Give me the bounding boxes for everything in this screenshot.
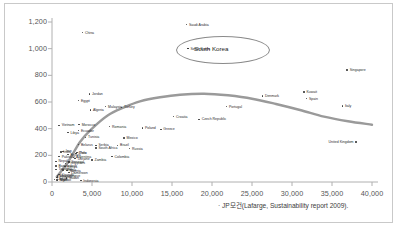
point-label: Singapore: [350, 68, 366, 72]
point-label: Nepal: [59, 159, 68, 163]
data-point: [90, 109, 92, 111]
data-point: [355, 141, 357, 143]
scatter-plot: 02004006008001,0001,200 05,00010,00015,0…: [5, 4, 394, 224]
data-point: [95, 147, 97, 149]
y-tick-800: 800: [7, 71, 47, 79]
y-tick-200: 200: [7, 151, 47, 159]
point-label: Croatia: [176, 115, 187, 119]
y-tick-600: 600: [7, 98, 47, 106]
point-label: Zambia: [95, 158, 107, 162]
point-label: Denmark: [265, 94, 279, 98]
data-point: [55, 165, 57, 167]
data-point: [123, 137, 125, 139]
data-point: [346, 69, 348, 71]
point-label: China: [85, 31, 94, 35]
point-label: Tunisia: [88, 135, 99, 139]
point-label: Saudi Arabia: [189, 23, 209, 27]
point-label: Colombia: [115, 155, 130, 159]
x-tick-35000: 35,000: [312, 190, 352, 198]
point-label: Malaysia: [108, 105, 122, 109]
data-point: [60, 151, 62, 153]
point-label: Morocco: [82, 123, 95, 127]
point-label: Portugal: [229, 105, 242, 109]
x-tick-20000: 20,000: [192, 190, 232, 198]
data-point: [58, 125, 60, 127]
point-label: Russia: [132, 147, 143, 151]
data-point: [160, 129, 162, 131]
data-point: [262, 95, 264, 97]
data-point: [91, 159, 93, 161]
point-label: Greece: [163, 127, 174, 131]
point-label: Romania: [112, 125, 126, 129]
y-tick-0: 0: [7, 178, 47, 186]
point-label: Jordan: [92, 92, 103, 96]
point-label: Algeria: [93, 108, 104, 112]
point-label: Brazil: [120, 143, 129, 147]
point-label: Ecuador: [81, 129, 94, 133]
point-label: Italy: [345, 104, 351, 108]
point-label: Czech Republic: [202, 117, 227, 121]
x-tick-40000: 40,000: [352, 190, 392, 198]
y-tick-1200: 1,200: [7, 18, 47, 26]
x-tick-10000: 10,000: [112, 190, 152, 198]
data-point: [303, 91, 305, 93]
y-tick-1000: 1,000: [7, 45, 47, 53]
point-label: Libya: [71, 131, 79, 135]
point-label: Indonesia: [83, 179, 98, 183]
y-tick-400: 400: [7, 125, 47, 133]
x-tick-15000: 15,000: [152, 190, 192, 198]
x-tick-0: 0: [32, 190, 72, 198]
data-point: [55, 169, 57, 171]
data-point: [142, 127, 144, 129]
point-label: Kuwait: [307, 90, 318, 94]
x-tick-30000: 30,000: [272, 190, 312, 198]
point-label: Belarus: [81, 143, 93, 147]
point-label: Spain: [309, 97, 318, 101]
data-point: [95, 145, 97, 147]
point-label: Malawi: [60, 178, 71, 182]
point-label: Vietnam: [62, 123, 75, 127]
data-point: [198, 119, 200, 121]
chart-frame: 02004006008001,0001,200 05,00010,00015,0…: [4, 3, 393, 223]
point-label: Poland: [145, 126, 156, 130]
point-label: United Kingdom: [329, 140, 354, 144]
point-label: Egypt: [81, 99, 90, 103]
data-point: [62, 169, 64, 171]
point-label: Mexico: [127, 136, 138, 140]
data-point: [342, 105, 344, 107]
x-tick-25000: 25,000: [232, 190, 272, 198]
south-korea-callout-label: South Korea: [194, 45, 228, 52]
source-caption: · JP모건(Lafarge, Sustainability report 20…: [218, 202, 348, 210]
x-tick-5000: 5,000: [72, 190, 112, 198]
point-label: Turkey: [124, 105, 135, 109]
data-point: [55, 161, 57, 163]
point-label: South Africa: [99, 146, 118, 150]
